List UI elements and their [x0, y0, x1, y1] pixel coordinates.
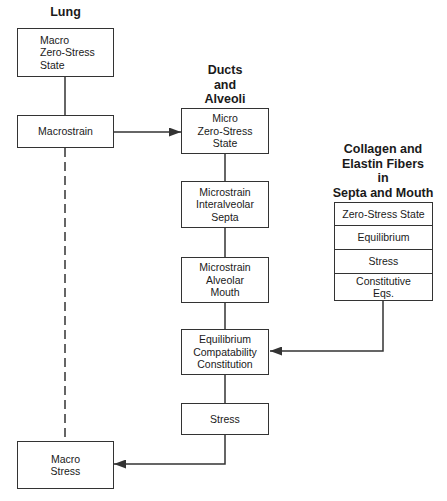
node-macro-stress: Macro Stress [17, 441, 114, 489]
fiber-row-constitutive: Constitutive Eqs. [335, 274, 432, 300]
node-microstrain-mouth: Microstrain Alveolar Mouth [181, 257, 269, 303]
fiber-row-equilibrium: Equilibrium [335, 226, 432, 250]
node-macrostrain: Macrostrain [17, 115, 114, 148]
node-equilibrium-compatability-constitution: Equilibrium Compatability Constitution [181, 329, 269, 375]
edge-stress-macrostress [114, 435, 225, 464]
node-microstrain-septa: Microstrain Interalveolar Septa [181, 181, 269, 228]
node-micro-zero-stress: Micro Zero-Stress State [181, 108, 269, 154]
fiber-row-stress: Stress [335, 250, 432, 274]
node-macro-zero-stress: Macro Zero-Stress State [17, 28, 114, 77]
node-stress: Stress [181, 403, 269, 435]
heading-collagen-elastin: Collagen and Elastin Fibers in Septa and… [318, 142, 447, 200]
heading-lung: Lung [17, 5, 114, 20]
edge-fibers-equilibrium [270, 301, 383, 351]
fiber-row-zero-stress: Zero-Stress State [335, 203, 432, 226]
heading-ducts-alveoli: Ducts and Alveoli [181, 63, 269, 107]
node-fiber-stack: Zero-Stress State Equilibrium Stress Con… [334, 202, 433, 301]
